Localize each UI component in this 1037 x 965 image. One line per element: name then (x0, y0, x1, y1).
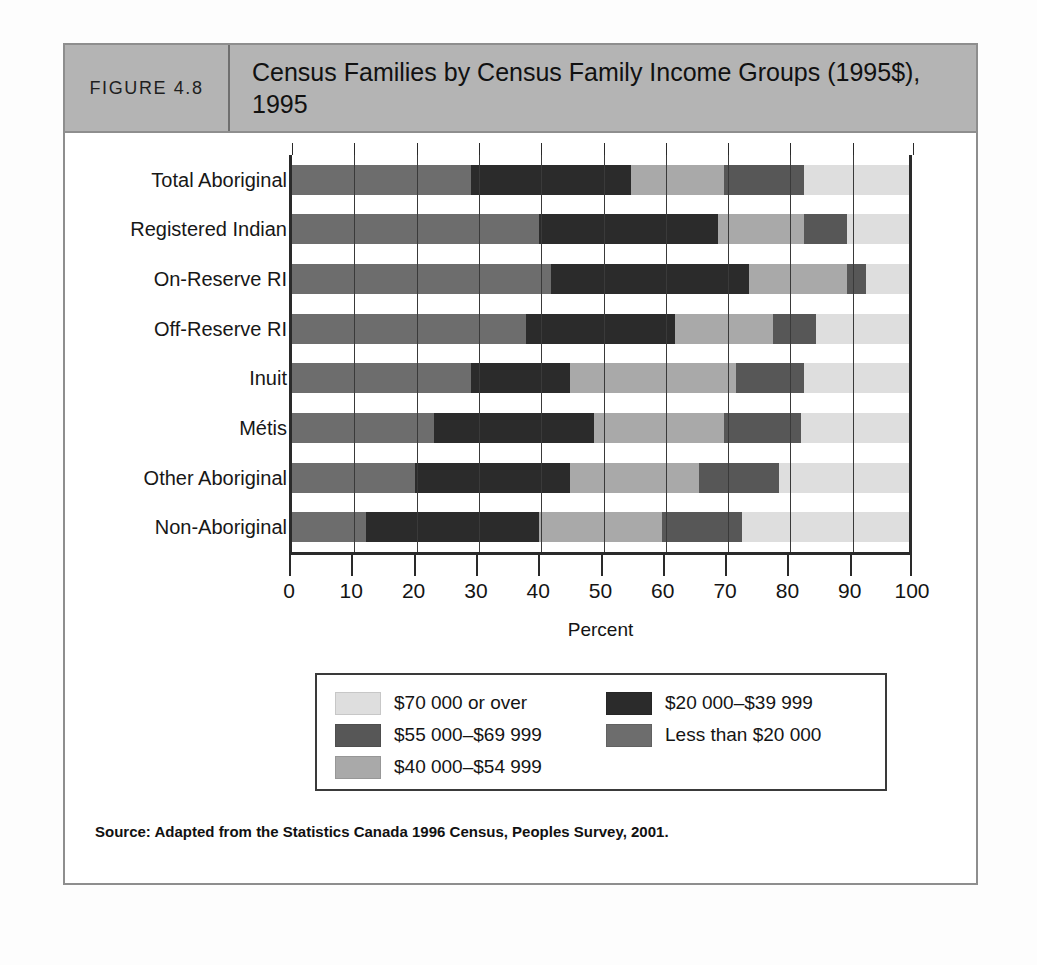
y-axis-label: Métis (87, 416, 287, 439)
gridline (354, 155, 355, 552)
bar-segment (847, 214, 909, 244)
bar-segment (551, 264, 748, 294)
legend-swatch (606, 724, 652, 747)
bar-segment (736, 363, 804, 393)
figure-frame: FIGURE 4.8 Census Families by Census Fam… (63, 43, 978, 885)
x-axis-tick-label: 70 (713, 579, 736, 603)
y-axis-label: Inuit (87, 367, 287, 390)
bar-segment (366, 512, 539, 542)
bar-row (292, 165, 909, 195)
figure-header: FIGURE 4.8 Census Families by Census Fam… (65, 45, 976, 133)
top-tick (853, 143, 854, 155)
bar-segment (570, 463, 700, 493)
bar-segment (539, 214, 718, 244)
bar-row (292, 314, 909, 344)
x-axis-tick-label: 20 (402, 579, 425, 603)
bar-segment (415, 463, 569, 493)
figure-title: Census Families by Census Family Income … (230, 45, 976, 131)
plot-area (289, 155, 912, 555)
x-axis-tick (787, 555, 789, 576)
top-tick (541, 143, 542, 155)
top-tick (913, 143, 914, 155)
bar-segment (292, 165, 471, 195)
chart-area: Total AboriginalRegistered IndianOn-Rese… (65, 133, 976, 887)
x-axis-tick-label: 90 (838, 579, 861, 603)
legend-label: $70 000 or over (394, 692, 527, 714)
x-axis-tick-label: 0 (283, 579, 295, 603)
bar-segment (539, 512, 662, 542)
bar-segment (675, 314, 774, 344)
top-tick (417, 143, 418, 155)
y-axis-label: Off-Reserve RI (87, 317, 287, 340)
x-axis-tick (351, 555, 353, 576)
legend-swatch (335, 692, 381, 715)
x-axis-title: Percent (289, 619, 912, 641)
legend-label: $20 000–$39 999 (665, 692, 813, 714)
bar-segment (471, 363, 570, 393)
bar-segment (804, 165, 909, 195)
legend-swatch (606, 692, 652, 715)
bar-segment (816, 314, 909, 344)
bar-segment (434, 413, 594, 443)
y-axis-label: Other Aboriginal (87, 466, 287, 489)
bar-segment (570, 363, 737, 393)
bar-segment (292, 214, 539, 244)
x-axis-tick (289, 555, 291, 576)
bar-segment (801, 413, 909, 443)
top-tick (292, 143, 293, 155)
x-axis-tick (601, 555, 603, 576)
bar-row (292, 413, 909, 443)
bar-row (292, 512, 909, 542)
x-axis-ticks (289, 555, 912, 577)
bar-segment (699, 463, 779, 493)
top-tick (728, 143, 729, 155)
bar-segment (292, 363, 471, 393)
x-axis-tick (414, 555, 416, 576)
gridline (541, 155, 542, 552)
top-tick (354, 143, 355, 155)
bar-segment (773, 314, 816, 344)
bar-segment (292, 413, 434, 443)
gridline (853, 155, 854, 552)
top-tick (604, 143, 605, 155)
bar-segment (779, 463, 909, 493)
legend-item[interactable]: $55 000–$69 999 (335, 719, 596, 751)
x-axis-tick (663, 555, 665, 576)
legend-item[interactable]: $20 000–$39 999 (606, 687, 867, 719)
bar-segment (749, 264, 848, 294)
x-axis-tick-label: 50 (589, 579, 612, 603)
top-tick (790, 143, 791, 155)
legend-item[interactable]: $70 000 or over (335, 687, 596, 719)
bar-segment (804, 363, 909, 393)
legend-item[interactable]: Less than $20 000 (606, 719, 867, 751)
legend-label: Less than $20 000 (665, 724, 821, 746)
legend-swatch (335, 756, 381, 779)
bar-segment (662, 512, 742, 542)
x-axis-tick-label: 80 (776, 579, 799, 603)
gridline (666, 155, 667, 552)
bar-row (292, 264, 909, 294)
legend-swatch (335, 724, 381, 747)
legend-label: $55 000–$69 999 (394, 724, 542, 746)
x-axis-tick-label: 60 (651, 579, 674, 603)
legend: $70 000 or over$20 000–$39 999$55 000–$6… (315, 673, 887, 791)
x-axis-tick (725, 555, 727, 576)
x-axis-tick (910, 555, 912, 576)
figure-page: FIGURE 4.8 Census Families by Census Fam… (0, 0, 1037, 965)
legend-item[interactable]: $40 000–$54 999 (335, 751, 596, 783)
bar-segment (292, 264, 551, 294)
bar-segment (742, 512, 909, 542)
bar-segment (724, 165, 804, 195)
x-axis-tick-label: 40 (527, 579, 550, 603)
bar-segment (804, 214, 847, 244)
bar-segment (526, 314, 674, 344)
x-axis-tick-labels: 0102030405060708090100 (289, 579, 912, 609)
y-axis-label: Non-Aboriginal (87, 516, 287, 539)
bar-segment (631, 165, 724, 195)
x-axis-tick-label: 100 (894, 579, 929, 603)
x-axis-tick-label: 10 (340, 579, 363, 603)
bar-row (292, 363, 909, 393)
y-axis-label: Total Aboriginal (87, 168, 287, 191)
x-axis-tick-label: 30 (464, 579, 487, 603)
y-axis-labels: Total AboriginalRegistered IndianOn-Rese… (87, 155, 287, 555)
